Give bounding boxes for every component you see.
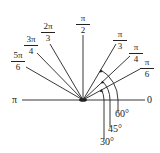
label-2pi-3: 2π3	[41, 22, 55, 43]
label-pi-4: π4	[129, 43, 143, 64]
ray-3pi-4	[37, 53, 83, 100]
origin-dot	[79, 98, 87, 102]
arc-45	[102, 81, 110, 100]
label-pi-2: π2	[76, 14, 90, 35]
ray-5pi-6	[26, 67, 83, 100]
label-3pi-4: 3π4	[24, 35, 38, 56]
label-pi-3: π3	[113, 30, 127, 51]
label-0: 0	[147, 95, 152, 105]
label-60-deg: 60°	[115, 109, 129, 119]
label-45-deg: 45°	[108, 124, 122, 134]
label-pi: π	[12, 95, 17, 105]
ray-2pi-3	[50, 44, 83, 100]
label-30-deg: 30°	[100, 137, 114, 147]
label-5pi-6: 5π6	[11, 51, 25, 72]
